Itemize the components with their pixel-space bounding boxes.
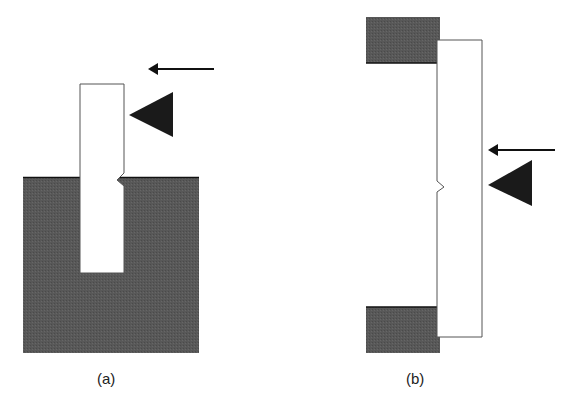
support-top [366, 17, 440, 63]
specimen [437, 40, 482, 337]
impact-test-diagram [0, 0, 578, 413]
panel-a-label: (a) [97, 370, 115, 387]
hammer-striker-icon [488, 160, 532, 206]
impact-direction-arrow-icon [148, 63, 214, 75]
panel-a [23, 63, 214, 353]
hammer-striker-icon [129, 92, 173, 137]
panel-b-label: (b) [406, 370, 424, 387]
panel-b [366, 17, 555, 353]
impact-direction-arrow-icon [488, 144, 555, 156]
specimen [80, 84, 124, 273]
support-bottom [366, 307, 440, 353]
